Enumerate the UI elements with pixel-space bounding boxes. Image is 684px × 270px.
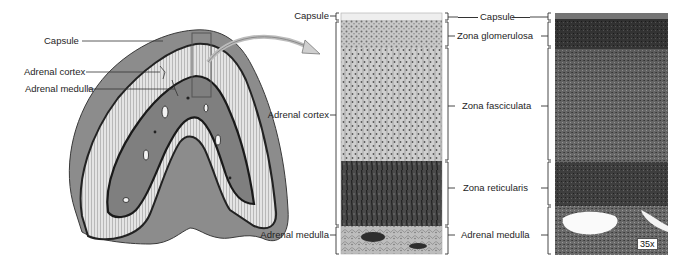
- gland-label-adrenal-medulla: Adrenal medulla: [25, 83, 94, 94]
- gland-label-capsule: Capsule: [44, 35, 79, 46]
- gland-label-adrenal-cortex: Adrenal cortex: [24, 66, 85, 77]
- zone-label-zona-fasciculata: Zona fasciculata: [462, 100, 531, 111]
- section-label-adrenal-cortex: Adrenal cortex: [268, 109, 329, 120]
- zone-label-zona-glomerulosa: Zona glomerulosa: [457, 30, 533, 41]
- section-label-adrenal-medulla: Adrenal medulla: [260, 229, 329, 240]
- adrenal-gland-illustration: [69, 30, 288, 244]
- section-illustration: [341, 13, 442, 254]
- magnification-badge: 35x: [637, 238, 658, 250]
- section-right-brackets: [445, 13, 458, 254]
- zone-label-zona-reticularis: Zona reticularis: [463, 182, 528, 193]
- section-left-brackets: [330, 13, 339, 254]
- zone-label-adrenal-medulla: Adrenal medulla: [461, 229, 530, 240]
- leader-line: [512, 17, 530, 18]
- adrenal-figure-graphics: [0, 0, 684, 270]
- micrograph-brackets: [530, 13, 551, 254]
- leader-line: [458, 17, 478, 18]
- zone-label-capsule: Capsule: [480, 11, 515, 22]
- section-label-capsule: Capsule: [294, 10, 329, 21]
- micrograph: [555, 13, 668, 255]
